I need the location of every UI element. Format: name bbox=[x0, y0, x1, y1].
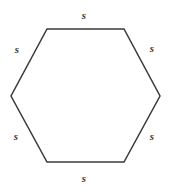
hexagon-side-label-bottom: s bbox=[82, 173, 86, 184]
hexagon-shape bbox=[0, 0, 173, 192]
hexagon-side-label-lower-right: s bbox=[150, 131, 154, 142]
hexagon-side-label-top: s bbox=[82, 10, 86, 21]
hexagon-side-label-upper-left: s bbox=[15, 44, 19, 55]
hexagon-outline bbox=[11, 29, 160, 162]
hexagon-figure: s s s s s s bbox=[0, 0, 173, 192]
hexagon-side-label-upper-right: s bbox=[150, 43, 154, 54]
hexagon-side-label-lower-left: s bbox=[14, 131, 18, 142]
